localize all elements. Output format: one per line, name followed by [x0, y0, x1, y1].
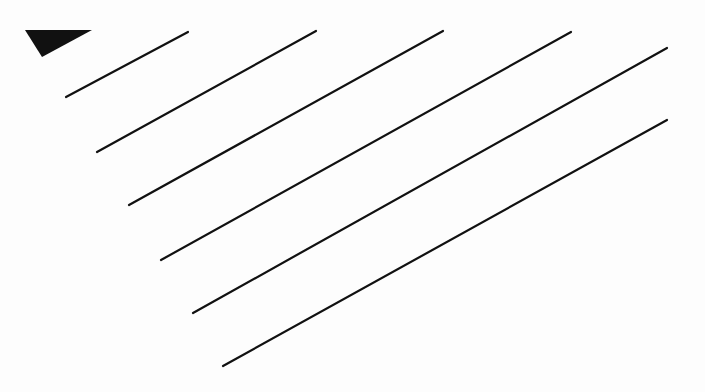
- parallel-lines-group: [66, 31, 667, 366]
- diagram-canvas: [0, 0, 705, 392]
- diagonal-line-2: [97, 31, 316, 152]
- diagonal-line-1: [66, 32, 188, 97]
- diagonal-lines-diagram: [0, 0, 705, 392]
- diagonal-line-4: [161, 32, 571, 260]
- diagonal-line-5: [193, 48, 667, 313]
- diagonal-line-6: [223, 120, 667, 366]
- diagonal-line-3: [129, 31, 443, 205]
- triangle-arrow-icon: [25, 30, 92, 57]
